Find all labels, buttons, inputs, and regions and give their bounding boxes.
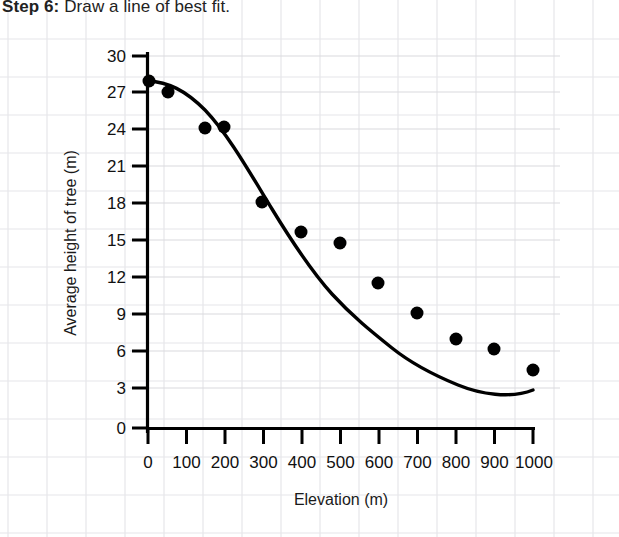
- y-tick-label: 18: [107, 194, 126, 213]
- scatter-chart: 30 27 24 21 18 15 12 9 6 3 0 Average hei…: [0, 18, 619, 537]
- data-point: [411, 307, 424, 320]
- data-points: [143, 75, 540, 377]
- data-point: [162, 86, 175, 99]
- y-tick-label: 0: [117, 419, 126, 438]
- y-axis-title: Average height of tree (m): [62, 150, 79, 336]
- y-axis: [132, 52, 148, 433]
- x-tick-label: 800: [442, 453, 470, 472]
- step-instruction: Step 6: Draw a line of best fit.: [2, 0, 230, 17]
- data-point: [334, 237, 347, 250]
- x-tick-label: 900: [480, 453, 508, 472]
- data-point: [218, 121, 231, 134]
- x-tick-label: 200: [211, 453, 239, 472]
- x-tick-label: 300: [249, 453, 277, 472]
- x-tick-label: 500: [326, 453, 354, 472]
- y-tick-label: 9: [117, 305, 126, 324]
- x-tick-label: 400: [288, 453, 316, 472]
- y-tick-label: 12: [107, 268, 126, 287]
- x-tick-label: 700: [403, 453, 431, 472]
- x-axis-title: Elevation (m): [294, 491, 388, 508]
- y-tick-label: 27: [107, 83, 126, 102]
- data-point: [527, 364, 540, 377]
- y-tick-labels: 30 27 24 21 18 15 12 9 6 3 0: [107, 47, 126, 438]
- x-tick-label: 1000: [515, 453, 553, 472]
- y-tick-label: 6: [117, 342, 126, 361]
- data-point: [450, 333, 463, 346]
- y-tick-label: 15: [107, 231, 126, 250]
- data-point: [256, 196, 269, 209]
- data-point: [372, 277, 385, 290]
- y-tick-label: 21: [107, 157, 126, 176]
- x-tick-label: 600: [365, 453, 393, 472]
- data-point: [295, 226, 308, 239]
- y-tick-label: 3: [117, 379, 126, 398]
- x-tick-labels: 0 100 200 300 400 500 600 700 800 900 10…: [143, 453, 553, 472]
- plot-gridlines: [130, 56, 560, 388]
- x-axis: [147, 429, 535, 445]
- data-point: [143, 75, 156, 88]
- x-tick-label: 100: [172, 453, 200, 472]
- data-point: [488, 343, 501, 356]
- step-instruction-text: Draw a line of best fit.: [64, 0, 230, 16]
- y-tick-label: 30: [107, 47, 126, 66]
- data-point: [199, 122, 212, 135]
- step-number-label: Step 6:: [2, 0, 59, 16]
- y-tick-label: 24: [107, 120, 126, 139]
- x-tick-label: 0: [143, 453, 152, 472]
